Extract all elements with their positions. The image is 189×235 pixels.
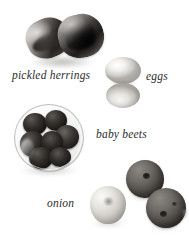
label-onion: onion — [47, 197, 74, 209]
label-eggs: eggs — [146, 70, 168, 82]
eggs-photo — [103, 56, 143, 110]
baby-beets-bowl-photo — [14, 104, 86, 174]
label-pickled-herrings: pickled herrings — [12, 69, 90, 81]
loose-beet — [146, 188, 186, 228]
onion-bulb — [90, 186, 126, 224]
loose-beet-lower-photo — [146, 188, 186, 228]
ingredient-photo-figure: pickled herrings eggs baby beets onion — [0, 0, 189, 235]
bowl-rim — [16, 106, 82, 170]
beet-stem-mark — [160, 211, 167, 217]
herring-fillet-right — [53, 9, 108, 63]
scan-edge-artifact — [183, 210, 187, 220]
label-baby-beets: baby beets — [96, 128, 147, 140]
egg-half-bottom — [106, 83, 140, 108]
pickled-herrings-photo — [24, 12, 104, 68]
beet-stem-mark — [143, 173, 150, 179]
beet-blemish-mark — [172, 202, 177, 206]
glass-bowl — [14, 104, 84, 172]
onion-photo — [90, 186, 128, 228]
egg-half-top — [105, 57, 141, 84]
